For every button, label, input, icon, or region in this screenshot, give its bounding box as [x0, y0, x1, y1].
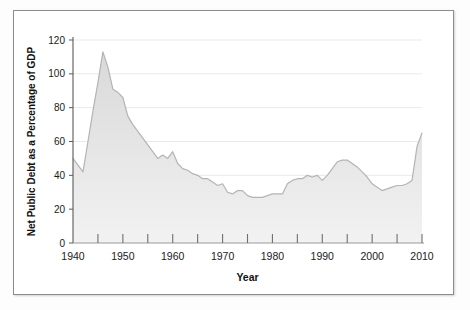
figure-canvas: 020406080100120 194019501960197019801990… [0, 0, 470, 310]
y-tick-label: 20 [54, 204, 66, 215]
y-tick-label: 120 [48, 35, 65, 46]
x-tick-label: 1940 [61, 250, 85, 262]
data-area-fill [73, 52, 422, 243]
debt-to-gdp-area-chart: 020406080100120 194019501960197019801990… [14, 11, 452, 293]
x-tick-label: 1990 [311, 250, 335, 262]
x-tick-label: 1970 [211, 250, 235, 262]
x-tick-label: 1960 [161, 250, 185, 262]
y-tick-label: 60 [54, 136, 66, 147]
x-tick-label: 1980 [261, 250, 285, 262]
y-tick-label: 80 [54, 102, 66, 113]
y-axis-title: Net Public Debt as a Percentage of GDP [26, 46, 37, 236]
y-axis-ticks [69, 40, 73, 243]
y-axis-tick-labels: 020406080100120 [48, 35, 65, 249]
x-tick-label: 2010 [410, 250, 434, 262]
x-tick-label: 2000 [360, 250, 384, 262]
y-tick-label: 100 [48, 68, 65, 79]
x-axis-title: Year [236, 271, 258, 283]
y-tick-label: 0 [59, 238, 65, 249]
y-tick-label: 40 [54, 170, 66, 181]
chart-frame-border: 020406080100120 194019501960197019801990… [13, 10, 454, 295]
x-tick-label: 1950 [111, 250, 135, 262]
x-axis-tick-labels: 19401950196019701980199020002010 [61, 250, 434, 262]
